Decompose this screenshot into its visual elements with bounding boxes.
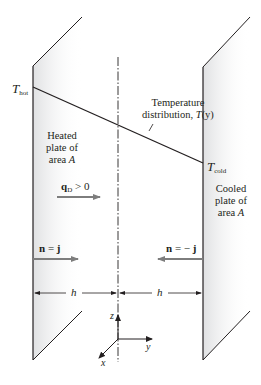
normal-right-label: n = − j: [166, 243, 196, 254]
axis-z-label: z: [110, 311, 114, 321]
normal-left-label: n = j: [39, 243, 61, 254]
t-hot-label: Thot: [12, 82, 28, 97]
heat-flux-label: qD > 0: [61, 181, 89, 194]
temperature-distribution-label: Temperature distribution, T(y): [139, 97, 217, 121]
t-cold-label: Tcold: [207, 160, 226, 175]
coordinate-axes: [99, 315, 152, 358]
gap-left-label: h: [71, 287, 77, 298]
axis-y-label: y: [146, 342, 150, 352]
gap-right-label: h: [157, 287, 163, 298]
heated-plate-label: Heated plate of area A: [40, 130, 84, 166]
cooled-plate-label: Cooled plate of area A: [207, 183, 255, 219]
diagram-canvas: Thot Tcold Temperature distribution, T(y…: [0, 0, 261, 385]
axis-x-label: x: [101, 358, 105, 368]
temperature-leader-line: [149, 124, 153, 131]
